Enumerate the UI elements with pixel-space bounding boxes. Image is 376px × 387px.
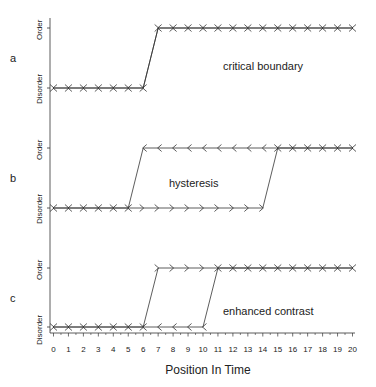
annotation-critical-boundary: critical boundary	[223, 60, 304, 72]
x-tick-label: 15	[273, 345, 282, 354]
annotation-enhanced-contrast: enhanced contrast	[223, 305, 314, 317]
x-tick-label: 11	[214, 345, 223, 354]
marker-left-arrow	[203, 324, 207, 331]
ytick-order-b: Order	[35, 139, 44, 160]
ytick-disorder-c: Disorder	[35, 314, 44, 345]
x-tick-label: 4	[111, 345, 116, 354]
x-tick-label: 2	[81, 345, 86, 354]
x-tick-label: 12	[228, 345, 237, 354]
x-tick-label: 0	[51, 345, 56, 354]
x-tick-label: 14	[258, 345, 267, 354]
series-line-forward	[54, 28, 353, 88]
x-tick-labels: 01234567891011121314151617181920	[51, 345, 357, 354]
marker-left-arrow	[352, 145, 356, 152]
panel-label-c: c	[10, 292, 16, 304]
ytick-order-c: Order	[35, 259, 44, 280]
ytick-order-a: Order	[35, 19, 44, 40]
ytick-disorder-a: Disorder	[35, 73, 44, 104]
x-tick-label: 20	[348, 345, 357, 354]
panel-c	[50, 265, 356, 331]
marker-left-arrow	[352, 25, 356, 32]
x-tick-label: 10	[199, 345, 208, 354]
x-tick-label: 1	[66, 345, 71, 354]
panel-a	[50, 25, 356, 92]
x-tick-label: 13	[243, 345, 252, 354]
x-tick-label: 8	[171, 345, 176, 354]
series-line-forward	[54, 268, 353, 327]
x-tick-label: 16	[288, 345, 297, 354]
x-axis-title: Position In Time	[165, 363, 251, 377]
x-tick-label: 7	[156, 345, 161, 354]
x-tick-label: 5	[126, 345, 131, 354]
x-tick-label: 6	[141, 345, 146, 354]
series-line-backward	[54, 268, 353, 327]
annotation-hysteresis: hysteresis	[169, 177, 219, 189]
panel-label-b: b	[10, 172, 16, 184]
marker-left-arrow	[352, 265, 356, 272]
x-tick-label: 9	[186, 345, 191, 354]
marker-left-arrow	[143, 85, 147, 92]
x-tick-label: 17	[303, 345, 312, 354]
marker-right-arrow	[155, 265, 159, 272]
x-tick-label: 19	[333, 345, 342, 354]
figure: a b c critical boundary hysteresis enhan…	[0, 0, 376, 387]
ytick-disorder-b: Disorder	[35, 193, 44, 224]
panel-label-a: a	[10, 52, 17, 64]
series-line-backward	[54, 28, 353, 88]
x-tick-label: 18	[318, 345, 327, 354]
x-tick-label: 3	[96, 345, 101, 354]
